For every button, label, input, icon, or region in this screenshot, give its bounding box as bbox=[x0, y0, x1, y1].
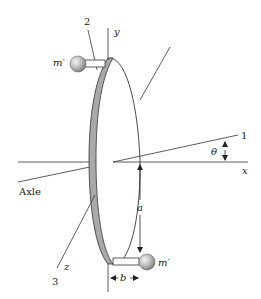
top-mass-label: m′ bbox=[53, 57, 65, 68]
z-axis-label: z bbox=[63, 261, 70, 272]
theta-label: θ bbox=[211, 146, 217, 157]
top-mass-ball bbox=[70, 56, 86, 72]
line-1 bbox=[113, 135, 238, 162]
axle-line bbox=[18, 167, 90, 182]
bottom-mass-ball bbox=[139, 254, 155, 270]
top-mass-rod bbox=[83, 60, 105, 67]
line-3-label: 3 bbox=[52, 276, 58, 287]
line-2-label: 2 bbox=[84, 16, 90, 27]
z-axis bbox=[57, 195, 95, 268]
x-axis-label: x bbox=[242, 165, 248, 176]
axle-label: Axle bbox=[18, 186, 41, 197]
dim-a-label: a bbox=[137, 202, 143, 213]
disk-face bbox=[110, 58, 140, 264]
disk-rim bbox=[89, 58, 113, 264]
rotating-disk-diagram: y 2 m′ x 1 θ Axle z 3 a m′ b bbox=[0, 0, 261, 299]
y-axis-label: y bbox=[113, 26, 120, 37]
line-1-label: 1 bbox=[241, 130, 247, 141]
dim-b-label: b bbox=[120, 272, 126, 283]
bottom-mass-label: m′ bbox=[158, 257, 170, 268]
bottom-mass-rod bbox=[113, 258, 139, 265]
reference-line-upper bbox=[140, 47, 170, 100]
